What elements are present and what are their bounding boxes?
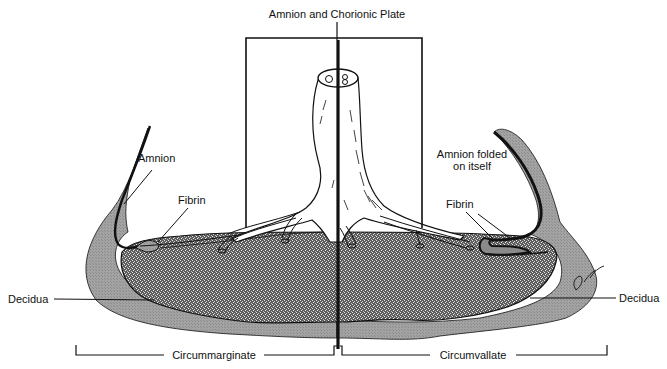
diagram-artwork — [0, 0, 667, 369]
circummarginate-label: Circummarginate — [164, 349, 264, 362]
fibrin-left-label: Fibrin — [178, 194, 206, 207]
placenta-diagram: Amnion and Chorionic Plate Amnion Fibrin… — [0, 0, 667, 369]
amnion-folded-label-line2: on itself — [432, 160, 512, 173]
fibrin-right-label: Fibrin — [446, 198, 474, 211]
decidua-right-label: Decidua — [619, 292, 659, 305]
title-label: Amnion and Chorionic Plate — [257, 8, 417, 21]
umbilical-cord — [232, 78, 464, 242]
decidua-left-label: Decidua — [8, 293, 48, 306]
circumvallate-label: Circumvallate — [430, 349, 516, 362]
amnion-label: Amnion — [138, 152, 175, 165]
